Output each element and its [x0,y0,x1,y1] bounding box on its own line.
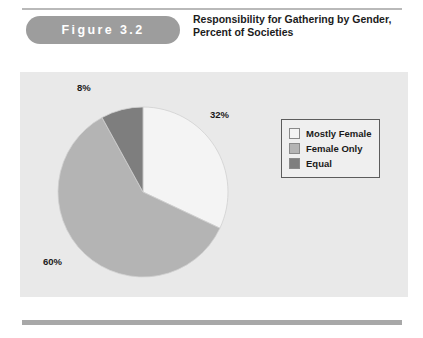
figure-header: Figure 3.2 Responsibility for Gathering … [0,13,423,49]
figure-title-line-1: Responsibility for Gathering by Gender, [193,13,411,26]
legend-item: Female Only [289,141,371,156]
pie-slice-value-label: 32% [210,109,229,120]
pie-chart [20,72,408,297]
bottom-divider [22,320,402,325]
legend-item-label: Female Only [306,143,363,154]
chart-legend: Mostly Female Female Only Equal [281,119,380,178]
legend-swatch-icon [289,128,300,139]
legend-item-label: Mostly Female [306,128,371,139]
legend-swatch-icon [289,158,300,169]
legend-item: Equal [289,156,371,171]
figure-title-line-2: Percent of Societies [193,26,411,39]
chart-plot-area: 32% 60% 8% Mostly Female Female Only Equ… [20,72,408,297]
figure-number-badge: Figure 3.2 [26,16,180,44]
figure-title: Responsibility for Gathering by Gender, … [193,13,411,39]
pie-slice-value-label: 60% [43,256,62,267]
pie-slice-value-label: 8% [77,82,91,93]
legend-item: Mostly Female [289,126,371,141]
legend-item-label: Equal [306,158,332,169]
figure-number-label: Figure 3.2 [26,16,180,44]
legend-swatch-icon [289,143,300,154]
top-divider [22,8,402,10]
